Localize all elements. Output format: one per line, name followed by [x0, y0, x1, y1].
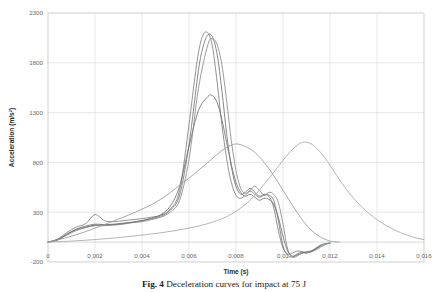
x-tick-label: 0,012: [322, 252, 338, 259]
figure-caption: Fig. 4 Deceleration curves for impact at…: [0, 279, 448, 289]
x-tick-label: 0,004: [134, 252, 150, 259]
y-tick-label: 2300: [29, 9, 43, 16]
x-axis-title: Time (s): [223, 268, 248, 276]
x-tick-label: 0,002: [87, 252, 103, 259]
y-tick-label: 1300: [29, 109, 43, 116]
x-tick-label: 0,016: [416, 252, 432, 259]
x-tick-label: 0,006: [181, 252, 197, 259]
figure-caption-label: Fig. 4: [142, 279, 164, 289]
x-tick-label: 0,014: [369, 252, 385, 259]
y-tick-label: -200: [31, 258, 44, 265]
y-tick-label: 800: [33, 159, 44, 166]
y-tick-label: 1800: [29, 59, 43, 66]
x-tick-label: 0: [46, 252, 50, 259]
figure-container: 00,0020,0040,0060,0080,010,0120,0140,016…: [0, 0, 448, 292]
x-tick-label: 0,008: [228, 252, 244, 259]
x-tick-label: 0,01: [277, 252, 290, 259]
y-axis-title: Acceleration (m/s²): [8, 108, 16, 167]
figure-caption-text: Deceleration curves for impact at 75 J: [166, 279, 306, 289]
deceleration-curves-chart: 00,0020,0040,0060,0080,010,0120,0140,016…: [0, 0, 448, 292]
y-tick-label: 300: [33, 209, 44, 216]
